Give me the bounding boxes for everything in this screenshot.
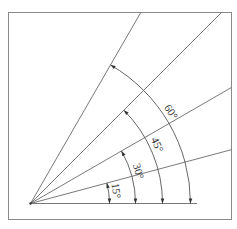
rays-group [29,13,231,205]
arc-45deg [124,110,163,203]
arrowhead-30-end [121,151,125,156]
labels-group: 15° 30° 45° 60° [110,102,181,199]
angle-label-30: 30° [131,162,147,180]
arrowhead-60-start [189,199,193,204]
angle-diagram: 15° 30° 45° 60° [0,0,237,229]
arrowhead-60-end [111,65,116,69]
ray-15deg [31,150,232,204]
ray-60deg [31,13,141,204]
angle-label-15: 15° [110,182,124,199]
ray-30deg [31,87,232,203]
arrowhead-15-end [106,183,109,188]
ray-45deg [31,13,222,204]
arrowhead-15-start [108,199,112,204]
arrowhead-30-start [134,199,138,204]
arrowhead-45-start [161,199,165,204]
origin-point [29,202,31,204]
